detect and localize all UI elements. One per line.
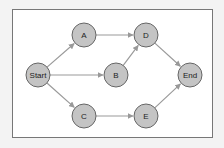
node-e: E [134,104,158,128]
node-c: C [72,104,96,128]
node-a: A [72,23,96,47]
node-label: B [113,71,118,80]
node-b: B [104,63,128,87]
node-label: E [143,112,148,121]
node-label: C [81,112,87,121]
node-label: A [81,31,87,40]
node-start: Start [26,63,50,87]
node-label: D [143,31,149,40]
node-label: End [183,71,197,80]
node-label: Start [30,71,48,80]
node-end: End [178,63,202,87]
node-d: D [134,23,158,47]
flow-diagram: StartABCDEEnd [0,0,224,148]
